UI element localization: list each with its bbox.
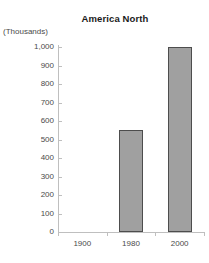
y-axis-tick-label: 0	[50, 227, 54, 236]
x-axis-label: 2000	[156, 239, 204, 248]
chart-title: America North	[40, 13, 190, 24]
y-axis-tick-label: 100	[41, 209, 54, 218]
x-axis-tick-mark	[155, 232, 156, 236]
y-axis-tick-mark	[58, 195, 62, 196]
x-axis-label: 1980	[107, 239, 155, 248]
y-axis-tick-label: 200	[41, 190, 54, 199]
y-axis-tick-label: 500	[41, 135, 54, 144]
x-axis-tick-mark	[204, 232, 205, 236]
y-axis-tick-mark	[58, 158, 62, 159]
y-axis-tick-label: 900	[41, 61, 54, 70]
y-axis-tick-mark	[58, 140, 62, 141]
y-axis-tick-mark	[58, 121, 62, 122]
y-axis-tick-label: 800	[41, 79, 54, 88]
y-axis-tick-mark	[58, 214, 62, 215]
y-axis-tick-mark	[58, 103, 62, 104]
y-axis-tick-mark	[58, 47, 62, 48]
bar	[168, 47, 192, 232]
x-axis-label: 1900	[58, 239, 106, 248]
x-axis-tick-mark	[107, 232, 108, 236]
y-axis-tick-label: 600	[41, 116, 54, 125]
y-axis-tick-mark	[58, 84, 62, 85]
y-axis-tick-mark	[58, 177, 62, 178]
y-axis-unit-label: (Thousands)	[3, 27, 48, 36]
x-axis-line	[58, 232, 204, 233]
bar	[119, 130, 143, 232]
x-axis-tick-mark	[58, 232, 59, 236]
y-axis-tick-label: 400	[41, 153, 54, 162]
y-axis-tick-label: 300	[41, 172, 54, 181]
bar-chart: America North (Thousands) 01002003004005…	[0, 0, 209, 263]
y-axis-tick-label: 1,000	[34, 42, 54, 51]
y-axis-tick-label: 700	[41, 98, 54, 107]
y-axis-tick-mark	[58, 66, 62, 67]
